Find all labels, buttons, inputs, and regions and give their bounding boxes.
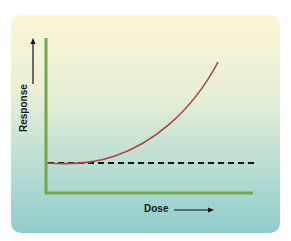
x-arrow-icon <box>174 208 214 213</box>
x-axis-label: Dose <box>144 203 168 214</box>
y-arrow-icon <box>31 38 36 84</box>
y-axis-label: Response <box>18 84 29 132</box>
dose-response-curve <box>47 62 218 164</box>
